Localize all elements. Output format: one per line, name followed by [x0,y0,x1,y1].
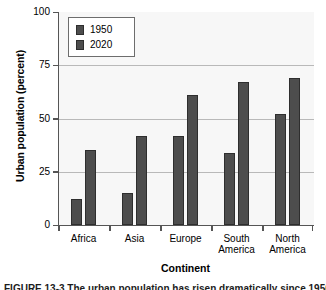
x-tick-label: Africa [58,234,109,245]
legend-swatch-icon [76,25,84,35]
legend-item-1950[interactable]: 1950 [76,22,134,37]
bar-group-south-america [211,12,262,225]
x-category-europe: Europe [160,226,211,266]
bar-1950-europe[interactable] [173,136,184,225]
legend-swatch-icon [76,40,84,50]
y-tick-label: 100 [33,6,50,17]
bar-1950-asia[interactable] [122,193,133,225]
x-tick-mark [160,226,162,231]
bar-2020-africa[interactable] [85,150,96,225]
y-tick-label: 0 [44,219,50,230]
y-tick-label: 75 [39,59,50,70]
x-tick-mark [58,226,60,231]
x-tick-mark [109,226,111,231]
x-tick-mark-end [312,226,314,231]
x-category-north-america: North America [262,226,313,266]
bar-2020-north-america[interactable] [289,78,300,225]
x-category-asia: Asia [109,226,160,266]
legend-item-2020[interactable]: 2020 [76,37,134,52]
figure-bar-chart: Urban population (percent) 100 75 50 25 … [0,0,326,290]
x-category-south-america: South America [211,226,262,266]
x-tick-label: South America [211,234,262,255]
bar-group-north-america [262,12,313,225]
bar-1950-south-america[interactable] [224,153,235,225]
y-axis-title: Urban population (percent) [14,9,26,224]
bar-2020-europe[interactable] [187,95,198,225]
bar-2020-south-america[interactable] [238,82,249,225]
y-tick-label: 50 [39,113,50,124]
legend: 1950 2020 [68,17,135,57]
y-tick-label: 25 [39,166,50,177]
x-tick-mark [211,226,213,231]
x-tick-label: North America [262,234,313,255]
legend-label: 1950 [90,24,112,35]
x-tick-label: Asia [109,234,160,245]
bar-1950-africa[interactable] [71,199,82,225]
x-tick-label: Europe [160,234,211,245]
x-axis: Africa Asia Europe South America North A… [58,226,313,266]
x-category-africa: Africa [58,226,109,266]
bar-group-europe [160,12,211,225]
legend-label: 2020 [90,39,112,50]
bar-2020-asia[interactable] [136,136,147,225]
x-tick-mark [262,226,264,231]
figure-caption: FIGURE 13-3 The urban population has ris… [4,283,326,290]
x-axis-title: Continent [58,262,313,274]
bar-1950-north-america[interactable] [275,114,286,225]
